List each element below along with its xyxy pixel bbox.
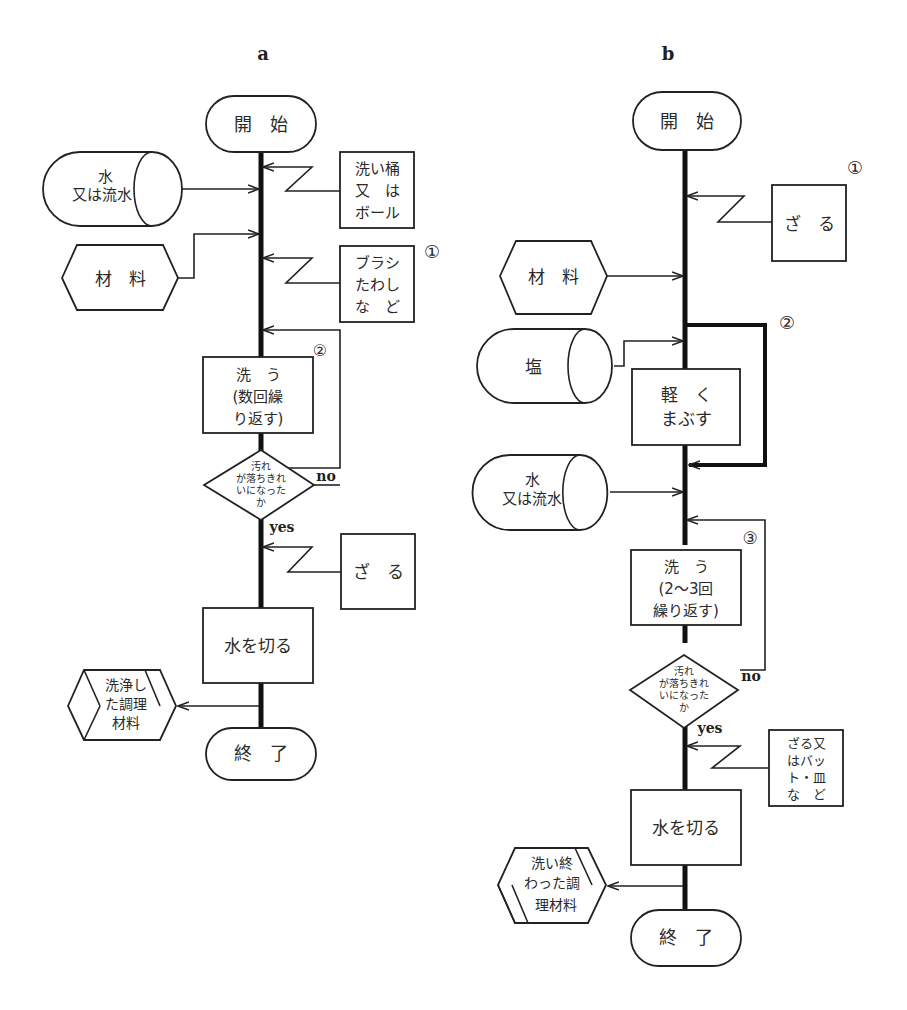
brush-box: ブラシ たわし な ど xyxy=(340,246,414,322)
decision-label-4: か xyxy=(256,497,266,508)
water-storage-symbol: 水 又は流水 xyxy=(473,455,608,530)
note-1: ① xyxy=(847,157,863,178)
output-label-2: わった調 xyxy=(524,875,580,891)
tub-label-3: ボール xyxy=(355,204,400,222)
no-label: no xyxy=(316,468,336,484)
wash-label: 洗 う xyxy=(664,558,709,576)
material-label: 材 料 xyxy=(95,269,146,289)
tub-label-2: 又 は xyxy=(355,182,400,200)
output-label-2: た調理 xyxy=(105,696,147,712)
output-label: 洗浄し xyxy=(105,677,147,693)
arrow xyxy=(178,234,259,278)
output-hexagon: 洗浄し た調理 材料 xyxy=(68,670,176,740)
brush-label: ブラシ xyxy=(355,254,400,272)
wash-process-box: 洗 う (数回繰 り返す) xyxy=(203,357,313,433)
colander-label: ざ る xyxy=(784,214,835,234)
decision-label-3: いになった xyxy=(659,690,709,701)
note-2: ② xyxy=(779,312,795,333)
tub-box: 洗い桶 又 は ボール xyxy=(340,152,414,228)
rub-process-box: 軽 く まぶす xyxy=(632,369,740,445)
tools-box: ざる又 はバッ ト・皿 な ど xyxy=(769,730,843,806)
panel-b-label: b xyxy=(662,43,675,64)
wash-label-2: (2～3回 xyxy=(659,580,714,598)
material-label: 材 料 xyxy=(528,267,579,287)
output-label-3: 理材料 xyxy=(535,897,577,913)
end-label: 終 了 xyxy=(659,927,713,948)
note-1: ① xyxy=(424,241,440,262)
start-terminal: 開 始 xyxy=(633,92,741,150)
note-3: ③ xyxy=(742,528,757,548)
water-label: 水 xyxy=(525,471,540,489)
decision-label-3: いになった xyxy=(236,485,286,496)
material-hexagon: 材 料 xyxy=(62,245,178,310)
end-terminal: 終 了 xyxy=(206,728,316,780)
no-label: no xyxy=(741,668,761,684)
decision-diamond: 汚れ が落ちきれ いになった か xyxy=(204,450,314,520)
zigzag-arrow xyxy=(687,746,769,768)
panel-a-label: a xyxy=(257,43,269,64)
brush-label-3: な ど xyxy=(355,298,400,316)
colander-box: ざ る xyxy=(772,185,846,261)
water-label-2: 又は流水 xyxy=(502,490,562,508)
drain-label: 水を切る xyxy=(652,818,720,838)
zigzag-arrow xyxy=(263,258,340,283)
zigzag-arrow xyxy=(687,196,772,222)
drain-process-box: 水を切る xyxy=(631,790,741,865)
colander-label: ざ る xyxy=(353,562,404,582)
drain-process-box: 水を切る xyxy=(203,608,313,683)
tools-label-2: はバッ xyxy=(787,753,826,768)
rub-label-2: まぶす xyxy=(661,409,712,429)
tools-label: ざる又 xyxy=(787,736,826,751)
start-label: 開 始 xyxy=(234,114,288,135)
note-2: ② xyxy=(313,341,327,360)
decision-label-2: が落ちきれ xyxy=(236,472,286,484)
output-label-3: 材料 xyxy=(112,715,140,731)
end-label: 終 了 xyxy=(234,743,288,764)
wash-process-box: 洗 う (2～3回 繰り返す) xyxy=(631,550,741,625)
output-hexagon: 洗い終 わった調 理材料 xyxy=(498,848,606,923)
panel-b: b 開 始 ざ る ① 材 料 ② 塩 xyxy=(473,43,864,966)
colander-box: ざ る xyxy=(341,534,415,609)
output-label: 洗い終 xyxy=(531,855,573,871)
wash-label-2: (数回繰 xyxy=(233,388,284,406)
yes-label: yes xyxy=(269,519,295,535)
start-label: 開 始 xyxy=(660,111,714,132)
water-label-2: 又は流水 xyxy=(72,186,132,204)
end-terminal: 終 了 xyxy=(631,910,741,966)
panel-a: a 開 始 水 又は流水 洗い桶 又 は ボール 材 料 xyxy=(43,43,440,780)
drain-label: 水を切る xyxy=(224,636,292,656)
rub-label: 軽 く xyxy=(661,385,712,405)
flowchart-canvas: a 開 始 水 又は流水 洗い桶 又 は ボール 材 料 xyxy=(0,0,907,1010)
salt-storage-symbol: 塩 xyxy=(477,329,612,403)
wash-label-3: 繰り返す) xyxy=(653,602,719,620)
arrow xyxy=(614,341,683,366)
water-storage-symbol: 水 又は流水 xyxy=(43,152,182,226)
decision-label-2: が落ちきれ xyxy=(659,677,709,689)
material-hexagon: 材 料 xyxy=(500,241,607,314)
zigzag-arrow xyxy=(263,167,340,191)
yes-label: yes xyxy=(697,720,723,736)
decision-label-4: か xyxy=(679,702,689,713)
salt-label: 塩 xyxy=(525,357,542,377)
water-label: 水 xyxy=(98,168,113,186)
tools-label-4: な ど xyxy=(787,787,826,802)
zigzag-arrow xyxy=(263,547,341,572)
start-terminal: 開 始 xyxy=(206,96,316,152)
decision-diamond: 汚れ が落ちきれ いになった か xyxy=(630,655,738,728)
wash-label-3: り返す) xyxy=(233,410,284,428)
tools-label-3: ト・皿 xyxy=(787,770,826,785)
decision-label: 汚れ xyxy=(251,460,271,472)
tub-label: 洗い桶 xyxy=(355,160,400,178)
wash-label: 洗 う xyxy=(236,366,281,384)
decision-label: 汚れ xyxy=(674,665,694,677)
brush-label-2: たわし xyxy=(355,276,400,294)
